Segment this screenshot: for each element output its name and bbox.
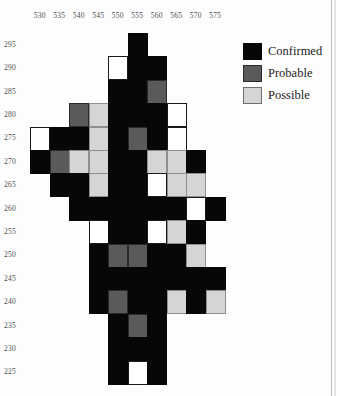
y-tick-label: 225 — [4, 367, 26, 377]
grid-cell-confirmed — [147, 314, 167, 338]
grid-cell-confirmed — [30, 150, 50, 174]
spot-map-figure: 530535540545550555560565570575 295290285… — [0, 0, 340, 396]
grid-cell-confirmed — [108, 337, 128, 361]
grid-cell-confirmed — [108, 127, 128, 151]
legend-swatch-possible — [243, 87, 262, 104]
grid-cell-probable — [69, 103, 89, 127]
grid-cell-confirmed — [186, 267, 206, 291]
y-tick-label: 255 — [4, 227, 26, 237]
grid-cell-confirmed — [89, 267, 109, 291]
grid-cell-none — [128, 361, 148, 385]
grid-cell-confirmed — [186, 150, 206, 174]
y-tick-label: 280 — [4, 110, 26, 120]
grid-cell-probable — [128, 244, 148, 268]
grid-cell-probable — [108, 244, 128, 268]
grid-cell-possible — [69, 150, 89, 174]
grid-cell-confirmed — [69, 197, 89, 221]
grid-cell-probable — [108, 290, 128, 314]
grid-cell-possible — [89, 150, 109, 174]
grid-cell-confirmed — [147, 56, 167, 80]
grid-cell-confirmed — [128, 56, 148, 80]
grid-cell-confirmed — [128, 173, 148, 197]
legend-swatch-confirmed — [243, 43, 262, 60]
grid-cell-none — [108, 56, 128, 80]
grid-cell-confirmed — [89, 244, 109, 268]
x-tick-label: 575 — [203, 11, 227, 20]
grid-cell-none — [167, 127, 187, 151]
grid-cell-confirmed — [147, 244, 167, 268]
grid-cell-confirmed — [128, 197, 148, 221]
grid-cell-confirmed — [206, 197, 226, 221]
y-tick-label: 250 — [4, 250, 26, 260]
grid-cell-confirmed — [167, 267, 187, 291]
legend: ConfirmedProbablePossible — [243, 42, 335, 108]
legend-label-possible: Possible — [268, 86, 310, 105]
grid-cell-none — [30, 127, 50, 151]
grid-cell-confirmed — [128, 337, 148, 361]
y-tick-label: 270 — [4, 157, 26, 167]
grid-cell-confirmed — [128, 290, 148, 314]
grid-cell-confirmed — [147, 361, 167, 385]
grid-cell-possible — [89, 103, 109, 127]
grid-cell-confirmed — [69, 127, 89, 151]
grid-cell-possible — [186, 173, 206, 197]
legend-item-confirmed: Confirmed — [243, 42, 335, 63]
y-tick-label: 245 — [4, 274, 26, 284]
grid-cell-possible — [167, 173, 187, 197]
grid-cell-confirmed — [128, 267, 148, 291]
grid-cell-confirmed — [147, 103, 167, 127]
grid-cell-possible — [147, 150, 167, 174]
grid-cell-confirmed — [108, 267, 128, 291]
legend-item-probable: Probable — [243, 64, 335, 85]
grid-cell-confirmed — [108, 80, 128, 104]
grid-cell-confirmed — [186, 220, 206, 244]
grid-cell-possible — [89, 173, 109, 197]
grid-cell-confirmed — [128, 80, 148, 104]
y-tick-label: 295 — [4, 40, 26, 50]
y-tick-label: 290 — [4, 63, 26, 73]
y-axis: 2952902852802752702652602552502452402352… — [0, 0, 30, 396]
grid-cell-confirmed — [50, 127, 70, 151]
grid-cell-confirmed — [128, 33, 148, 57]
y-tick-label: 230 — [4, 344, 26, 354]
grid-cell-confirmed — [206, 267, 226, 291]
grid-cell-confirmed — [167, 244, 187, 268]
grid-cell-probable — [128, 127, 148, 151]
grid-cell-possible — [167, 220, 187, 244]
grid-cell-possible — [167, 290, 187, 314]
y-tick-label: 260 — [4, 204, 26, 214]
grid-cell-none — [89, 220, 109, 244]
grid-cell-possible — [186, 244, 206, 268]
grid-cell-possible — [89, 127, 109, 151]
grid-cell-none — [167, 103, 187, 127]
grid-cell-confirmed — [128, 220, 148, 244]
grid-cell-confirmed — [147, 127, 167, 151]
grid-cell-confirmed — [147, 197, 167, 221]
grid-cell-confirmed — [108, 173, 128, 197]
legend-item-possible: Possible — [243, 86, 335, 107]
grid-cell-confirmed — [108, 314, 128, 338]
grid-cell-confirmed — [108, 103, 128, 127]
legend-swatch-probable — [243, 65, 262, 82]
grid-cell-confirmed — [50, 173, 70, 197]
grid-cell-confirmed — [108, 361, 128, 385]
grid-cell-confirmed — [89, 290, 109, 314]
grid-cell-confirmed — [186, 290, 206, 314]
grid-cell-confirmed — [108, 220, 128, 244]
y-tick-label: 235 — [4, 321, 26, 331]
grid-cell-probable — [147, 80, 167, 104]
grid-cell-confirmed — [108, 150, 128, 174]
y-tick-label: 265 — [4, 180, 26, 190]
grid-cell-confirmed — [147, 267, 167, 291]
grid-cell-confirmed — [147, 290, 167, 314]
grid-cell-none — [147, 220, 167, 244]
legend-label-probable: Probable — [268, 64, 312, 83]
grid-cell-confirmed — [89, 197, 109, 221]
grid-cell-confirmed — [108, 197, 128, 221]
grid-cell-confirmed — [69, 173, 89, 197]
grid-cell-confirmed — [128, 150, 148, 174]
grid-cell-probable — [50, 150, 70, 174]
grid-cell-possible — [206, 290, 226, 314]
grid-cell-confirmed — [128, 103, 148, 127]
grid-cell-confirmed — [147, 337, 167, 361]
